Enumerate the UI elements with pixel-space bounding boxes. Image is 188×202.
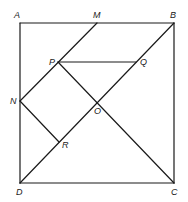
- point-label-d: D: [16, 187, 23, 197]
- point-label-a: A: [13, 10, 20, 20]
- point-label-b: B: [170, 10, 176, 20]
- point-label-o: O: [94, 106, 101, 116]
- point-label-r: R: [62, 140, 69, 150]
- point-label-q: Q: [140, 57, 147, 67]
- segments-group: [20, 23, 174, 183]
- segment-pc: [58, 62, 174, 183]
- point-label-n: N: [10, 96, 17, 106]
- segment-nr: [20, 101, 59, 142]
- point-label-c: C: [171, 187, 178, 197]
- point-label-p: P: [49, 57, 55, 67]
- geometry-diagram: AMBNPQORDC: [0, 0, 188, 202]
- point-label-m: M: [93, 10, 101, 20]
- labels-group: AMBNPQORDC: [10, 10, 178, 197]
